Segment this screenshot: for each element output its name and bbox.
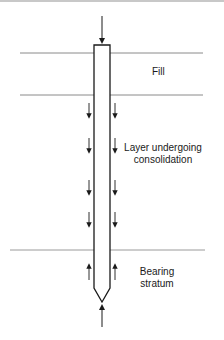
fill-label: Fill	[152, 66, 165, 78]
fill-label-text: Fill	[152, 66, 165, 77]
consolidating-label-line-1: Layer undergoing	[118, 142, 208, 154]
consolidating-layer-label: Layer undergoing consolidation	[118, 142, 208, 166]
pile-shaft	[94, 45, 110, 302]
pile-diagram	[0, 0, 224, 340]
bearing-label-line-2: stratum	[136, 278, 178, 290]
bearing-stratum-label: Bearing stratum	[136, 266, 178, 290]
consolidating-label-line-2: consolidation	[118, 154, 208, 166]
bearing-label-line-1: Bearing	[136, 266, 178, 278]
